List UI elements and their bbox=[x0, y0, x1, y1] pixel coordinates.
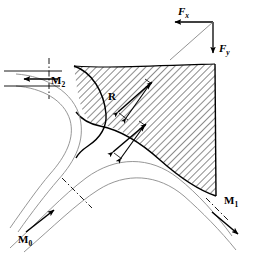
left-channel-inner-wall bbox=[10, 86, 71, 228]
reaction-label: R bbox=[108, 90, 117, 102]
m1-label-base: M bbox=[224, 194, 235, 206]
m0-label-subscript: 0 bbox=[28, 239, 32, 248]
m1-group: M1 bbox=[212, 194, 238, 234]
resultant-line bbox=[170, 22, 213, 60]
reaction-arrow-lower-tie bbox=[114, 153, 122, 159]
m0-group: M0 bbox=[18, 210, 54, 248]
fx-label: Fx bbox=[177, 5, 189, 20]
m1-arrow bbox=[212, 212, 238, 234]
diagram-canvas: Fx Fy R M2 M0 M1 bbox=[0, 0, 257, 257]
m2-label: M2 bbox=[51, 74, 65, 89]
force-component-group: Fx Fy bbox=[170, 5, 230, 60]
m0-label: M0 bbox=[18, 233, 32, 248]
m2-label-subscript: 2 bbox=[61, 80, 65, 89]
blade-right-edge bbox=[215, 64, 216, 196]
m2-label-base: M bbox=[51, 74, 62, 86]
blade-body-section bbox=[74, 64, 216, 196]
fy-label: Fy bbox=[218, 42, 230, 57]
m0-label-base: M bbox=[18, 233, 29, 245]
fy-label-subscript: y bbox=[225, 48, 230, 57]
m0-section-line bbox=[62, 178, 92, 208]
m1-label-subscript: 1 bbox=[234, 200, 238, 209]
m1-label: M1 bbox=[224, 194, 238, 209]
fx-label-subscript: x bbox=[184, 11, 189, 20]
free-body-diagram-svg: Fx Fy R M2 M0 M1 bbox=[0, 0, 257, 257]
left-flow-channel bbox=[4, 71, 81, 232]
